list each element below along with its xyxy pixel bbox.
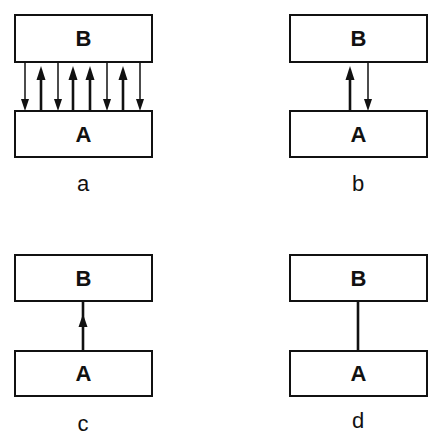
panel-d-box-a-label: A (351, 361, 367, 386)
panel-c-caption: c (78, 411, 89, 436)
panel-d: B A d (290, 255, 427, 433)
arrow-up-icon (37, 66, 46, 111)
panel-b-caption: b (352, 171, 364, 196)
panel-c-box-b-label: B (76, 266, 92, 291)
panel-b-box-b-label: B (351, 26, 367, 51)
panel-a-arrows (21, 62, 144, 111)
arrow-down-icon (364, 62, 372, 111)
arrow-up-icon (346, 66, 355, 111)
arrow-up-icon (69, 66, 78, 111)
panel-d-box-b-label: B (351, 266, 367, 291)
arrow-up-icon (79, 301, 88, 351)
arrow-down-icon (54, 62, 62, 111)
arrow-down-icon (136, 62, 144, 111)
arrow-up-icon (119, 66, 128, 111)
panel-c: B A c (15, 255, 152, 436)
arrow-down-icon (103, 62, 111, 111)
panel-b-box-a-label: A (351, 122, 367, 147)
panel-c-box-a-label: A (76, 361, 92, 386)
arrow-down-icon (21, 62, 29, 111)
panel-a-box-a-label: A (76, 122, 92, 147)
arrow-up-icon (86, 66, 95, 111)
panel-b: B A b (290, 15, 427, 196)
panel-a-caption: a (77, 171, 90, 196)
diagram-canvas: B A (0, 0, 443, 439)
panel-a-box-b-label: B (76, 26, 92, 51)
panel-d-caption: d (352, 408, 364, 433)
panel-a: B A (15, 15, 152, 196)
